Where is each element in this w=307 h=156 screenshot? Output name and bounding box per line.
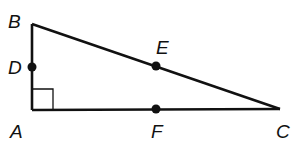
right-angle-marker — [32, 89, 53, 110]
label-b: B — [8, 11, 21, 32]
label-e: E — [156, 37, 169, 58]
label-c: C — [276, 121, 290, 142]
point-d — [28, 63, 37, 72]
triangle-diagram: B D A E F C — [0, 0, 307, 156]
label-f: F — [151, 121, 164, 142]
label-d: D — [8, 57, 22, 78]
point-f — [152, 105, 161, 114]
label-a: A — [9, 121, 23, 142]
point-e — [152, 62, 161, 71]
